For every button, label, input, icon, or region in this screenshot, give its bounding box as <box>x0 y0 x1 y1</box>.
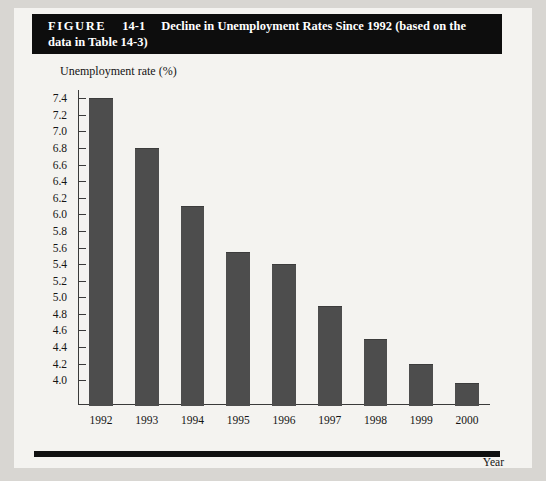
figure-title-banner: FIGURE14-1Decline in Unemployment Rates … <box>32 14 502 54</box>
y-axis-tick-label: 7.0 <box>53 125 67 137</box>
y-axis-tick-label: 4.6 <box>53 324 67 336</box>
y-axis-tick <box>79 231 86 232</box>
y-axis-tick <box>79 330 86 331</box>
bar <box>364 339 388 406</box>
y-axis-tick-label: 6.2 <box>53 192 67 204</box>
y-axis-tick <box>79 214 86 215</box>
y-axis-tick <box>79 131 86 132</box>
y-axis-tick-label: 6.8 <box>53 142 67 154</box>
y-axis-tick <box>79 165 86 166</box>
x-axis-title: Year <box>483 456 504 468</box>
y-axis-tick <box>79 248 86 249</box>
y-axis-tick-label: 6.6 <box>53 159 67 171</box>
y-axis-tick-label: 4.8 <box>53 308 67 320</box>
y-axis-title: Unemployment rate (%) <box>60 64 177 79</box>
y-axis-tick-label: 4.0 <box>53 374 67 386</box>
figure-caption-line-1: Decline in Unemployment Rates Since 1992… <box>161 19 466 33</box>
y-axis-tick-label: 5.2 <box>53 275 67 287</box>
y-axis-tick-label: 7.4 <box>53 92 67 104</box>
x-axis-tick-label: 1994 <box>181 414 204 426</box>
figure-title-line-2: data in Table 14-3) <box>48 34 492 50</box>
y-axis-tick <box>79 380 86 381</box>
figure-number: 14-1 <box>122 19 145 33</box>
y-axis-tick-label: 5.6 <box>53 242 67 254</box>
y-axis-tick <box>79 314 86 315</box>
y-axis-tick <box>79 264 86 265</box>
y-axis-tick <box>79 148 86 149</box>
y-axis-tick-label: 7.2 <box>53 109 67 121</box>
y-axis-tick-label: 6.0 <box>53 208 67 220</box>
x-axis-tick-label: 1998 <box>364 414 387 426</box>
figure-caption-line-2: data in Table 14-3) <box>48 35 148 49</box>
y-axis-tick <box>79 281 86 282</box>
y-axis-tick-label: 5.8 <box>53 225 67 237</box>
bar <box>318 306 342 406</box>
bar <box>226 252 250 406</box>
plot-area: 7.47.27.06.86.66.46.26.05.85.65.45.25.04… <box>78 90 490 405</box>
x-axis-tick-label: 1997 <box>318 414 341 426</box>
y-axis-tick <box>79 297 86 298</box>
bar <box>272 264 296 406</box>
bar <box>181 206 205 406</box>
y-axis-tick-label: 5.4 <box>53 258 67 270</box>
figure-label: FIGURE <box>48 19 106 33</box>
x-axis-tick-label: 1992 <box>89 414 112 426</box>
bottom-rule <box>34 451 500 457</box>
figure-title-line-1: FIGURE14-1Decline in Unemployment Rates … <box>48 18 492 34</box>
x-axis-tick-label: 1996 <box>273 414 296 426</box>
y-axis-tick-label: 4.2 <box>53 358 67 370</box>
bar <box>455 383 479 406</box>
bar <box>409 364 433 406</box>
bar-chart: Unemployment rate (%) 7.47.27.06.86.66.4… <box>32 64 510 420</box>
figure-page: FIGURE14-1Decline in Unemployment Rates … <box>0 0 546 481</box>
y-axis-tick-label: 4.4 <box>53 341 67 353</box>
x-axis-tick-label: 1999 <box>410 414 433 426</box>
y-axis-tick <box>79 181 86 182</box>
y-axis-tick <box>79 98 86 99</box>
bar <box>135 148 159 406</box>
x-axis-tick-label: 1993 <box>135 414 158 426</box>
x-axis-tick-label: 2000 <box>456 414 479 426</box>
y-axis-tick <box>79 347 86 348</box>
bar <box>89 98 113 406</box>
y-axis-tick <box>79 115 86 116</box>
y-axis-tick <box>79 198 86 199</box>
y-axis-tick-label: 5.0 <box>53 291 67 303</box>
y-axis-tick-label: 6.4 <box>53 175 67 187</box>
y-axis-tick <box>79 364 86 365</box>
x-axis-tick-label: 1995 <box>227 414 250 426</box>
